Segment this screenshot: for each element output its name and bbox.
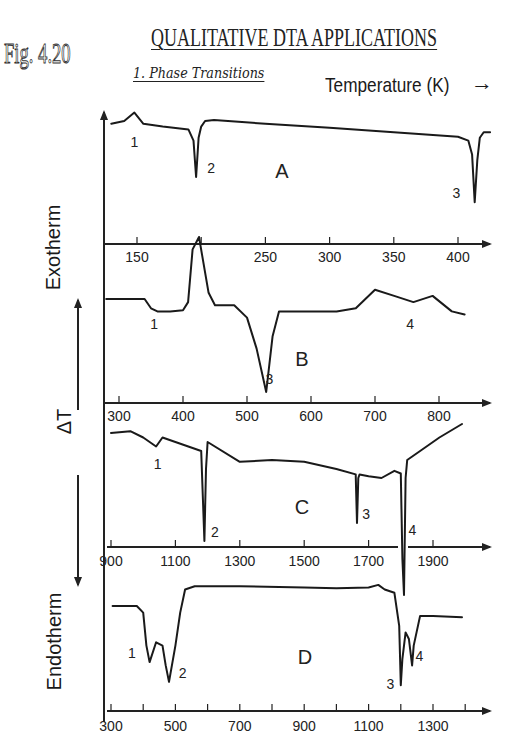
x-tick-label: 1300 — [224, 553, 255, 569]
peak-annotation: 2 — [211, 524, 219, 540]
x-tick-label: 350 — [382, 249, 406, 265]
x-tick-label: 600 — [299, 408, 323, 424]
x-tick-label: 400 — [171, 408, 195, 424]
x-tick-label: 400 — [446, 249, 470, 265]
panel-b: 300400500600700800B134 — [104, 237, 490, 424]
panel-label: B — [295, 348, 308, 370]
x-tick-label: 300 — [318, 249, 342, 265]
peak-annotation: 2 — [179, 665, 187, 681]
panel-d: 30050070090011001300D1234 — [99, 585, 490, 734]
x-tick-label: 150 — [125, 249, 149, 265]
dta-curve-a — [111, 113, 490, 203]
peak-annotation: 3 — [386, 676, 394, 692]
dta-curve-b — [106, 237, 464, 392]
peak-annotation: 1 — [150, 316, 158, 332]
dta-curve-d — [113, 585, 462, 685]
x-tick-label: 1100 — [160, 553, 190, 569]
peak-annotation: 1 — [128, 645, 136, 661]
x-tick-label: 800 — [427, 408, 451, 424]
panel-label: C — [295, 496, 309, 518]
panel-c: 90011001300150017001900C1234 — [99, 424, 490, 595]
dta-chart: 150250300350400A123300400500600700800B13… — [0, 0, 507, 742]
peak-annotation: 2 — [207, 160, 215, 176]
peak-annotation: 3 — [453, 185, 461, 201]
peak-annotation: 4 — [415, 648, 423, 664]
x-tick-label: 500 — [235, 408, 259, 424]
x-tick-label: 300 — [107, 408, 131, 424]
x-tick-label: 250 — [254, 249, 278, 265]
peak-annotation: 4 — [406, 316, 414, 332]
panel-label: D — [298, 646, 312, 668]
x-tick-label: 900 — [99, 553, 123, 569]
peak-annotation: 3 — [266, 371, 274, 387]
dta-curve-c — [111, 424, 462, 595]
panel-label: A — [275, 160, 289, 182]
peak-annotation: 1 — [131, 134, 139, 150]
peak-annotation: 3 — [362, 506, 370, 522]
x-tick-label: 700 — [363, 408, 387, 424]
peak-annotation: 1 — [154, 456, 162, 472]
panel-a: 150250300350400A123 — [104, 113, 490, 265]
x-tick-label: 1700 — [353, 553, 384, 569]
x-tick-label: 1100 — [354, 718, 384, 734]
x-tick-label: 1900 — [417, 553, 448, 569]
x-tick-label: 900 — [293, 718, 317, 734]
x-tick-label: 1500 — [289, 553, 320, 569]
x-tick-label: 700 — [228, 718, 252, 734]
x-tick-label: 500 — [164, 718, 188, 734]
x-tick-label: 300 — [99, 718, 123, 734]
x-tick-label: 1300 — [417, 718, 448, 734]
peak-annotation: 4 — [409, 522, 417, 538]
